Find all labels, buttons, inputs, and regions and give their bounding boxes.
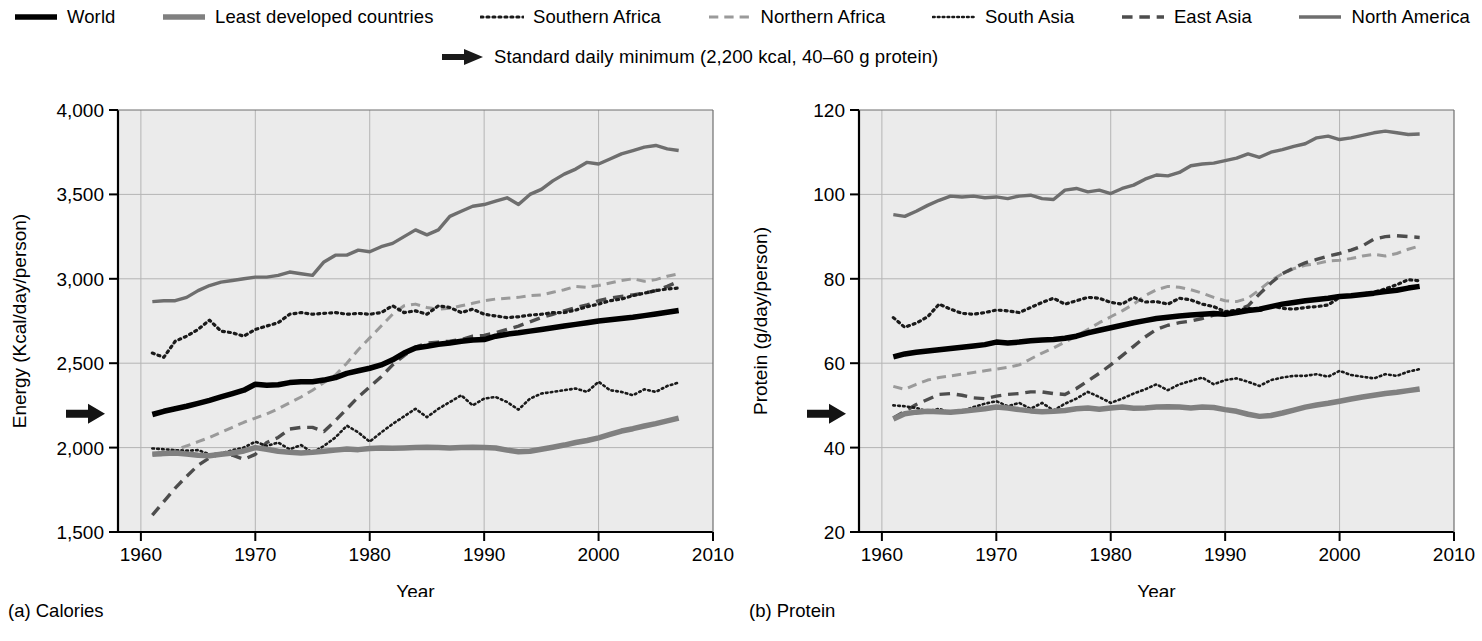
x-tick-label: 1980 bbox=[1090, 544, 1132, 565]
legend-item-south_asia: South Asia bbox=[932, 8, 1074, 27]
x-axis-title: Year bbox=[1137, 581, 1176, 597]
legend-item-southern_africa: Southern Africa bbox=[480, 8, 661, 27]
legend-swatch-south_asia-icon bbox=[932, 9, 976, 25]
legend-label-southern_africa: Southern Africa bbox=[533, 8, 661, 27]
y-axis-title: Protein (g/day/person) bbox=[750, 227, 771, 415]
panel-caption-protein: (b) Protein bbox=[749, 600, 835, 622]
y-tick-label: 3,000 bbox=[56, 269, 104, 290]
chart-panel-calories: 1,5002,0002,5003,0003,5004,0001960197019… bbox=[0, 92, 741, 597]
y-tick-label: 60 bbox=[824, 353, 845, 374]
y-axis-title: Energy (Kcal/day/person) bbox=[9, 214, 30, 428]
legend-annotation-label: Standard daily minimum (2,200 kcal, 40–6… bbox=[494, 48, 938, 67]
x-tick-label: 1970 bbox=[234, 544, 276, 565]
legend-annotation-row: Standard daily minimum (2,200 kcal, 40–6… bbox=[440, 47, 938, 67]
x-axis-title: Year bbox=[396, 581, 435, 597]
x-tick-label: 1990 bbox=[1204, 544, 1246, 565]
right-arrow-icon bbox=[440, 47, 486, 67]
legend-swatch-ldc-icon bbox=[162, 9, 206, 25]
y-tick-label: 4,000 bbox=[56, 100, 104, 121]
legend-item-north_america: North America bbox=[1298, 8, 1470, 27]
legend-item-world: World bbox=[14, 8, 115, 27]
standard-minimum-arrow-icon bbox=[807, 404, 846, 424]
standard-minimum-arrow-icon bbox=[66, 404, 105, 424]
y-tick-label: 20 bbox=[824, 522, 845, 543]
y-tick-label: 40 bbox=[824, 438, 845, 459]
y-tick-label: 80 bbox=[824, 269, 845, 290]
legend-label-northern_africa: Northern Africa bbox=[761, 8, 886, 27]
plot-background bbox=[118, 110, 713, 532]
x-tick-label: 2000 bbox=[577, 544, 619, 565]
legend-label-ldc: Least developed countries bbox=[215, 8, 433, 27]
x-tick-label: 2000 bbox=[1318, 544, 1360, 565]
x-tick-label: 2010 bbox=[692, 544, 734, 565]
x-tick-label: 1970 bbox=[975, 544, 1017, 565]
calories-line-chart: 1,5002,0002,5003,0003,5004,0001960197019… bbox=[0, 92, 741, 597]
y-tick-label: 2,500 bbox=[56, 353, 104, 374]
legend-item-ldc: Least developed countries bbox=[162, 8, 433, 27]
x-tick-label: 1960 bbox=[120, 544, 162, 565]
legend-swatch-north_america-icon bbox=[1298, 9, 1342, 25]
protein-line-chart: 20406080100120196019701980199020002010Ye… bbox=[741, 92, 1482, 597]
legend-item-northern_africa: Northern Africa bbox=[708, 8, 886, 27]
legend-swatch-world-icon bbox=[14, 9, 58, 25]
y-tick-label: 3,500 bbox=[56, 184, 104, 205]
legend-swatch-northern_africa-icon bbox=[708, 9, 752, 25]
x-tick-label: 1980 bbox=[349, 544, 391, 565]
legend-item-east_asia: East Asia bbox=[1121, 8, 1252, 27]
legend-swatch-southern_africa-icon bbox=[480, 9, 524, 25]
legend-label-world: World bbox=[67, 8, 115, 27]
legend-label-east_asia: East Asia bbox=[1174, 8, 1252, 27]
x-tick-label: 2010 bbox=[1433, 544, 1475, 565]
panel-caption-calories: (a) Calories bbox=[8, 600, 104, 622]
legend-label-north_america: North America bbox=[1351, 8, 1470, 27]
x-tick-label: 1990 bbox=[463, 544, 505, 565]
y-tick-label: 120 bbox=[813, 100, 845, 121]
y-tick-label: 100 bbox=[813, 184, 845, 205]
y-tick-label: 2,000 bbox=[56, 438, 104, 459]
y-tick-label: 1,500 bbox=[56, 522, 104, 543]
legend-swatch-east_asia-icon bbox=[1121, 9, 1165, 25]
x-tick-label: 1960 bbox=[861, 544, 903, 565]
chart-legend: WorldLeast developed countriesSouthern A… bbox=[0, 0, 1482, 88]
chart-panel-protein: 20406080100120196019701980199020002010Ye… bbox=[741, 92, 1482, 597]
legend-label-south_asia: South Asia bbox=[985, 8, 1074, 27]
legend-series-row: WorldLeast developed countriesSouthern A… bbox=[14, 8, 1474, 27]
